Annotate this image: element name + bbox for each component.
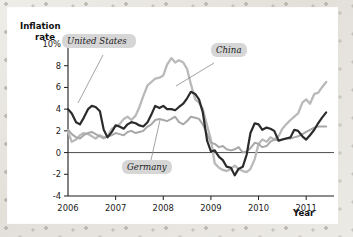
- y-tick-label: -4: [53, 191, 61, 201]
- axis-titles: Inflation rate Year: [20, 21, 315, 218]
- leader-line-china: [176, 63, 214, 86]
- series-line-china: [68, 58, 326, 172]
- inflation-rate-line-chart: 10%86420-2-4 200620072008200920102011 Un…: [8, 8, 337, 223]
- x-tick-label: 2010: [248, 203, 269, 213]
- y-axis-title-line2: rate: [35, 32, 55, 42]
- leader-line-united-states: [78, 55, 103, 103]
- label-text-china: China: [216, 45, 242, 55]
- x-tick-label: 2007: [105, 203, 126, 213]
- leader-line-germany: [151, 120, 160, 160]
- label-text-united-states: United States: [67, 36, 127, 46]
- y-axis-title-line1: Inflation: [20, 21, 61, 31]
- y-tick-label: 8: [56, 61, 61, 71]
- data-series-layer: [68, 58, 326, 175]
- x-tick-label: 2006: [57, 203, 78, 213]
- y-tick-label: 2: [56, 126, 61, 136]
- x-tick-label: 2009: [200, 203, 221, 213]
- series-line-united-states: [68, 92, 326, 176]
- y-tick-label: 4: [56, 104, 61, 114]
- chart-card: 10%86420-2-4 200620072008200920102011 Un…: [8, 8, 337, 223]
- series-label-china: China: [211, 43, 247, 57]
- y-tick-label: 0: [56, 148, 61, 158]
- label-text-germany: Germany: [127, 162, 167, 172]
- x-axis-ticks: 200620072008200920102011: [57, 196, 317, 213]
- series-label-germany: Germany: [122, 160, 172, 174]
- x-tick-label: 2008: [153, 203, 174, 213]
- series-label-united-states: United States: [62, 34, 136, 48]
- y-tick-label: -2: [53, 169, 61, 179]
- y-tick-label: 6: [56, 82, 61, 92]
- y-axis-ticks: 10%86420-2-4: [42, 39, 68, 201]
- x-axis-title: Year: [292, 208, 315, 218]
